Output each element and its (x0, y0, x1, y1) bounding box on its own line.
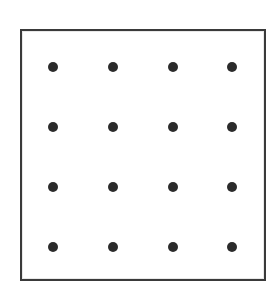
figure-canvas (0, 0, 280, 286)
bounding-rectangle (20, 29, 266, 281)
